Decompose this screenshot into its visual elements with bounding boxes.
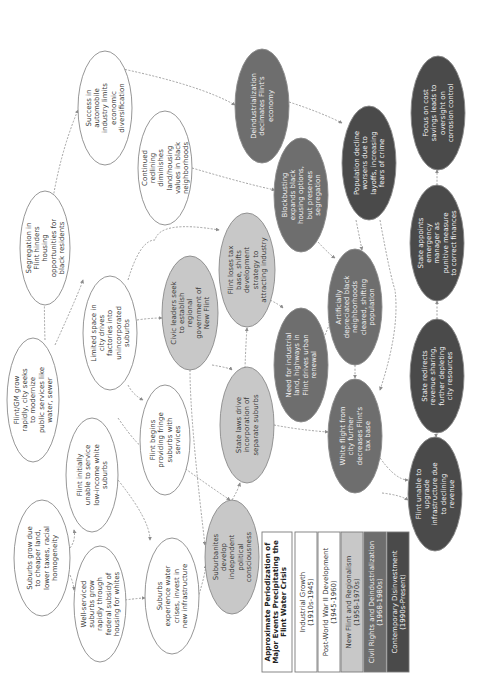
legend-label-industrial: Industrial Growth(1910s-1945) <box>299 572 315 632</box>
node-label-line: separate suburbs <box>252 394 260 455</box>
node-label-line: New Flint <box>203 296 211 329</box>
node-label-line: public services like <box>38 367 46 433</box>
node-label-line: State appoints <box>417 217 425 268</box>
node-label-line: to cheaper land, <box>34 529 42 586</box>
node-label-line: depreciated black <box>343 275 351 339</box>
node-label-line: layoffs, increasing <box>370 131 378 195</box>
node-label-line: Continued <box>141 150 149 186</box>
node-label-line: values in black <box>174 141 182 194</box>
node-label-line: further depleting <box>438 346 446 405</box>
node-label-line: housing <box>41 234 49 262</box>
node-label-line: decreases Flint's <box>356 406 364 465</box>
node-flint-unable-service: Flint initiallyunable to servicelow-inco… <box>66 418 118 532</box>
node-label: Well-servicedsuburbs growrapidly through… <box>80 571 121 636</box>
node-label-line: land, highways in <box>293 334 301 395</box>
node-label-line: population <box>368 288 376 325</box>
node-label-line: rapidly, city seeks <box>21 368 29 432</box>
node-label-line: economy <box>267 90 275 122</box>
node-flint-loses-tax: Flint loses taxbase, shiftsdevelopmentst… <box>219 213 275 327</box>
node-state-appoints: State appointsemergencymanager aspunitiv… <box>410 185 464 301</box>
node-deindustrialization: Deindustrializationdecimates Flint'secon… <box>235 49 289 163</box>
node-suburbanites: Suburbanitesdevelopindependentpoliticalc… <box>205 500 259 614</box>
node-label-line: worsens due to <box>361 136 369 190</box>
node-label-line: tax base <box>364 421 372 451</box>
node-label-line: decimates Flint's <box>258 76 266 136</box>
node-label-line: experience water <box>164 565 172 626</box>
node-label-line: suburbs <box>123 319 131 347</box>
node-label-line: Flint unable to <box>415 469 423 519</box>
node-blockbusting: Blockbustingexpands blackhousing options… <box>274 138 328 252</box>
node-label-line: political <box>237 543 245 570</box>
node-suburbs-water: Suburbsexperience watercrises, invest in… <box>145 538 199 654</box>
node-label-line: opportunities for <box>50 219 58 278</box>
node-label-line: suburbs grow <box>88 580 96 628</box>
node-label: State laws driveincorporation ofseparate… <box>235 394 259 455</box>
node-need-industrial: Need for industrialland, highways inFlin… <box>274 308 328 422</box>
edge-arrow <box>212 365 232 370</box>
node-label-line: consciousness <box>245 531 253 582</box>
node-label-line: factories into <box>106 310 114 356</box>
node-label-line: government of <box>195 287 203 339</box>
node-label-line: infrastructure due <box>431 462 439 525</box>
node-label-line: emergency <box>425 223 433 262</box>
node-label-line: industry limits <box>101 83 109 133</box>
node-label-line: to correct finances <box>450 210 458 276</box>
node-label-line: to declining <box>440 473 448 514</box>
node-label-line: Suburbs <box>156 581 164 610</box>
node-label-line: automobile <box>93 88 101 128</box>
node-label-line: unincorporated <box>115 306 123 360</box>
node-label-line: housing for whites <box>113 571 121 636</box>
node-label-line: land/housing <box>166 145 174 190</box>
node-label-line: Well-serviced <box>80 581 88 628</box>
node-label-line: neighborhoods <box>351 281 359 333</box>
node-label-line: incorporation of <box>243 397 251 453</box>
node-label-line: Flint hinders <box>33 226 41 270</box>
node-label-line: services <box>174 425 182 454</box>
node-label-line: to modernize <box>29 377 37 423</box>
node-label-line: Artificially <box>335 290 343 325</box>
node-well-serviced: Well-servicedsuburbs growrapidly through… <box>74 546 126 662</box>
node-label-line: revenue <box>448 480 456 509</box>
node-label-line: punitive measure <box>442 212 450 273</box>
node-label-line: Flint begins <box>149 419 157 460</box>
edge-arrow <box>190 370 205 545</box>
node-label-line: federal subsidy of <box>105 572 113 635</box>
node-label-line: but preserves <box>306 171 314 220</box>
node-label-line: low-income white <box>93 444 101 506</box>
edge-arrow <box>125 598 145 600</box>
node-label: Population declineworsens due tolayoffs,… <box>353 131 386 195</box>
node-label-line: new infrastructure <box>181 564 189 628</box>
node-artificially-depreciated: Artificiallydepreciated blackneighborhoo… <box>328 249 382 365</box>
node-label-line: diminishes <box>157 149 165 187</box>
node-label-line: development <box>243 247 251 293</box>
node-label-line: suburbs with <box>166 417 174 462</box>
edge-arrow <box>318 242 335 258</box>
node-label-line: Need for industrial <box>285 332 293 397</box>
node-label-line: base, shifts <box>235 250 243 290</box>
node-label: Success inautomobileindustry limitsecono… <box>85 83 126 133</box>
node-label-line: corrosion control <box>447 84 455 143</box>
node-label: Suburbanitesdevelopindependentpoliticalc… <box>212 531 253 582</box>
node-label-line: Suburbs grow due <box>26 526 34 590</box>
node-label-line: develop <box>220 543 228 571</box>
node-label-line: suburbs <box>101 461 109 489</box>
node-label-line: State laws drive <box>235 397 243 453</box>
edge-arrow <box>382 493 408 500</box>
node-suburbs-grow: Suburbs grow dueto cheaper land,lower ta… <box>14 500 70 616</box>
edge-arrow <box>232 483 240 500</box>
node-label-line: redlining <box>149 153 157 184</box>
edge-arrow <box>192 168 275 190</box>
edge-arrow <box>356 220 362 250</box>
node-label: Flint loses taxbase, shiftsdevelopmentst… <box>227 237 268 302</box>
node-state-redirects: State redirectsrevenue sharing,further d… <box>410 319 464 433</box>
node-label-line: rapidly through <box>96 577 104 631</box>
node-label-line: diversification <box>118 83 126 132</box>
node-label-line: housing options, <box>297 166 305 224</box>
edge-arrow <box>289 102 342 123</box>
node-label-line: renewal <box>310 351 318 379</box>
node-label-line: Flint loses tax <box>227 246 235 295</box>
node-state-laws: State laws driveincorporation ofseparate… <box>220 367 274 483</box>
node-label-line: Population decline <box>353 131 361 195</box>
node-label-line: city drives <box>98 315 106 352</box>
edge-arrow <box>378 455 408 480</box>
